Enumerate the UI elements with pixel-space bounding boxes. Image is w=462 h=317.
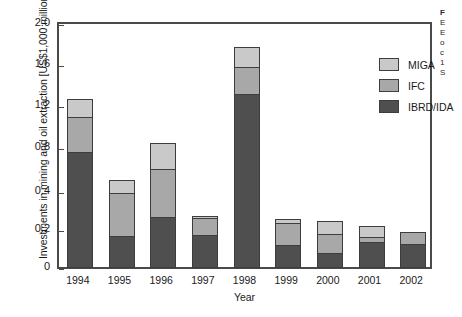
x-axis-tick-label: 1996 [138, 274, 184, 286]
y-axis-tick-mark [59, 107, 64, 108]
x-axis-tick-label: 1999 [263, 274, 309, 286]
bar-stack[interactable] [67, 99, 93, 267]
bar-segment-ibrd-ida[interactable] [67, 152, 93, 268]
legend-swatch-icon [379, 58, 399, 71]
y-axis-tick-label: 1.6 [17, 58, 50, 69]
caption-line-7: S [440, 68, 462, 78]
bar-segment-ibrd-ida[interactable] [359, 242, 385, 268]
x-axis-tick-label: 1995 [97, 274, 143, 286]
bar-segment-ibrd-ida[interactable] [317, 253, 343, 268]
caption-line-3: E [440, 28, 462, 38]
y-axis-tick-mark [59, 231, 64, 232]
legend-row[interactable]: IFC [379, 75, 462, 96]
bar-segment-ifc[interactable] [109, 193, 135, 237]
figure: Investments in mining and oil extraction… [0, 0, 462, 317]
bar-segment-ibrd-ida[interactable] [275, 245, 301, 268]
legend-label: IFC [408, 80, 425, 92]
y-axis-tick-label: 2.0 [17, 17, 50, 28]
caption-line-1: F [440, 8, 462, 18]
bar-stack[interactable] [275, 219, 301, 267]
legend-label: MIGA [408, 59, 435, 71]
y-axis-tick-label: 0.4 [17, 185, 50, 196]
caption-line-6: 1 [440, 58, 462, 68]
caption-line-2: E [440, 18, 462, 28]
x-axis-tick-label: 2002 [388, 274, 434, 286]
y-axis-tick-mark [59, 269, 64, 270]
x-axis-title: Year [57, 291, 432, 303]
bar-stack[interactable] [150, 143, 176, 267]
y-axis-tick-label: 1.2 [17, 99, 50, 110]
bar-segment-miga[interactable] [234, 47, 260, 68]
x-axis-tick-label: 1994 [55, 274, 101, 286]
bar-segment-ibrd-ida[interactable] [150, 217, 176, 268]
legend-swatch-icon [379, 100, 399, 113]
plot-area: MIGAIFCIBRD/IDA [57, 22, 432, 269]
bar-segment-miga[interactable] [109, 180, 135, 195]
x-axis-tick-label: 2000 [305, 274, 351, 286]
x-axis-tick-label: 2001 [347, 274, 393, 286]
bar-stack[interactable] [400, 232, 426, 267]
bar-segment-ibrd-ida[interactable] [192, 235, 218, 268]
bar-stack[interactable] [317, 221, 343, 267]
legend-row[interactable]: IBRD/IDA [379, 96, 462, 117]
x-axis-tick-label: 1997 [180, 274, 226, 286]
y-axis-tick-label: 0.8 [17, 141, 50, 152]
bar-segment-ifc[interactable] [234, 67, 260, 95]
legend-label: IBRD/IDA [408, 101, 454, 113]
caption-line-4: o [440, 38, 462, 48]
bar-segment-miga[interactable] [317, 221, 343, 234]
bar-stack[interactable] [234, 47, 260, 267]
y-axis-tick-mark [59, 25, 64, 26]
bar-segment-ibrd-ida[interactable] [234, 94, 260, 268]
y-axis-tick-label: 0 [17, 261, 50, 272]
bar-segment-ifc[interactable] [275, 223, 301, 246]
legend-swatch-icon [379, 79, 399, 92]
caption-line-5: c [440, 48, 462, 58]
bar-stack[interactable] [359, 226, 385, 267]
bar-segment-ibrd-ida[interactable] [109, 236, 135, 268]
y-axis-tick-mark [59, 66, 64, 67]
bar-stack[interactable] [109, 180, 135, 267]
x-axis-tick-label: 1998 [222, 274, 268, 286]
bar-segment-ifc[interactable] [67, 117, 93, 154]
y-axis-tick-mark [59, 193, 64, 194]
bar-segment-ifc[interactable] [317, 234, 343, 255]
y-axis-tick-label: 0.2 [17, 223, 50, 234]
bar-stack[interactable] [192, 216, 218, 267]
bar-segment-ifc[interactable] [150, 169, 176, 218]
bar-segment-ibrd-ida[interactable] [400, 244, 426, 268]
caption-sliver: F E E o c 1 S [440, 8, 462, 78]
bar-segment-miga[interactable] [150, 143, 176, 170]
y-axis-tick-mark [59, 149, 64, 150]
bar-segment-miga[interactable] [67, 99, 93, 117]
bar-segment-ifc[interactable] [192, 218, 218, 236]
